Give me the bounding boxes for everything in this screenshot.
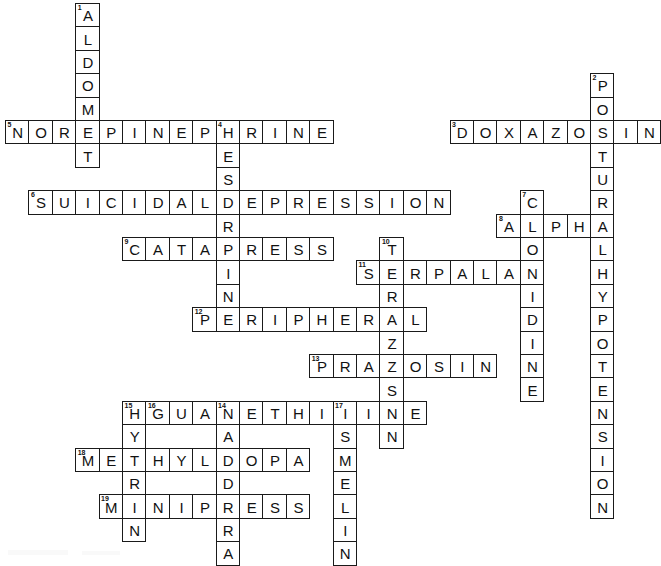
crossword-cell[interactable]: L bbox=[403, 307, 427, 331]
crossword-cell[interactable]: N bbox=[520, 354, 544, 378]
crossword-cell[interactable]: A bbox=[169, 190, 193, 214]
crossword-cell[interactable]: Y bbox=[169, 448, 193, 472]
crossword-cell[interactable]: I bbox=[262, 120, 286, 144]
crossword-cell[interactable]: I bbox=[613, 120, 637, 144]
crossword-cell[interactable]: P bbox=[426, 260, 450, 284]
crossword-cell[interactable]: A bbox=[590, 214, 614, 238]
crossword-cell[interactable]: A bbox=[192, 237, 216, 261]
crossword-cell[interactable]: S bbox=[590, 120, 614, 144]
crossword-cell[interactable]: N bbox=[590, 401, 614, 425]
crossword-cell[interactable]: 12P bbox=[192, 307, 216, 331]
crossword-cell[interactable]: Y bbox=[590, 284, 614, 308]
crossword-cell[interactable]: I bbox=[122, 190, 146, 214]
crossword-cell[interactable]: P bbox=[192, 120, 216, 144]
crossword-cell[interactable]: 3D bbox=[450, 120, 474, 144]
crossword-cell[interactable]: O bbox=[75, 73, 99, 97]
crossword-cell[interactable]: R bbox=[379, 284, 403, 308]
crossword-cell[interactable]: 18M bbox=[75, 448, 99, 472]
crossword-cell[interactable]: O bbox=[28, 120, 52, 144]
crossword-cell[interactable]: T bbox=[262, 401, 286, 425]
crossword-cell[interactable]: 16G bbox=[145, 401, 169, 425]
crossword-cell[interactable]: S bbox=[216, 167, 240, 191]
crossword-cell[interactable]: N bbox=[426, 190, 450, 214]
crossword-cell[interactable]: R bbox=[286, 190, 310, 214]
crossword-cell[interactable]: S bbox=[286, 494, 310, 518]
crossword-cell[interactable]: N bbox=[379, 401, 403, 425]
crossword-cell[interactable]: U bbox=[590, 167, 614, 191]
crossword-cell[interactable]: Z bbox=[379, 331, 403, 355]
crossword-cell[interactable]: S bbox=[356, 190, 380, 214]
crossword-cell[interactable]: N bbox=[145, 494, 169, 518]
crossword-cell[interactable]: E bbox=[262, 237, 286, 261]
crossword-cell[interactable]: H bbox=[309, 307, 333, 331]
crossword-cell[interactable]: S bbox=[286, 237, 310, 261]
crossword-cell[interactable]: I bbox=[520, 331, 544, 355]
crossword-cell[interactable]: 13P bbox=[309, 354, 333, 378]
crossword-cell[interactable]: E bbox=[169, 120, 193, 144]
crossword-cell[interactable]: E bbox=[590, 377, 614, 401]
crossword-cell[interactable]: E bbox=[216, 143, 240, 167]
crossword-cell[interactable]: L bbox=[192, 190, 216, 214]
crossword-cell[interactable]: I bbox=[262, 307, 286, 331]
crossword-cell[interactable]: E bbox=[239, 494, 263, 518]
crossword-cell[interactable]: S bbox=[333, 190, 357, 214]
crossword-cell[interactable]: N bbox=[122, 518, 146, 542]
crossword-cell[interactable]: O bbox=[590, 97, 614, 121]
crossword-cell[interactable]: 9C bbox=[122, 237, 146, 261]
crossword-cell[interactable]: 2P bbox=[590, 73, 614, 97]
crossword-cell[interactable]: D bbox=[145, 190, 169, 214]
crossword-cell[interactable]: I bbox=[169, 494, 193, 518]
crossword-cell[interactable]: I bbox=[590, 448, 614, 472]
crossword-cell[interactable]: I bbox=[216, 260, 240, 284]
crossword-cell[interactable]: P bbox=[192, 494, 216, 518]
crossword-cell[interactable]: A bbox=[286, 448, 310, 472]
crossword-cell[interactable]: S bbox=[309, 237, 333, 261]
crossword-cell[interactable]: I bbox=[379, 190, 403, 214]
crossword-cell[interactable]: 10T bbox=[379, 237, 403, 261]
crossword-cell[interactable]: C bbox=[99, 190, 123, 214]
crossword-cell[interactable]: P bbox=[286, 307, 310, 331]
crossword-cell[interactable]: A bbox=[496, 260, 520, 284]
crossword-cell[interactable]: N bbox=[637, 120, 661, 144]
crossword-cell[interactable]: R bbox=[52, 120, 76, 144]
crossword-cell[interactable]: E bbox=[403, 401, 427, 425]
crossword-cell[interactable]: D bbox=[216, 448, 240, 472]
crossword-cell[interactable]: E bbox=[75, 120, 99, 144]
crossword-cell[interactable]: 14N bbox=[216, 401, 240, 425]
crossword-cell[interactable]: L bbox=[192, 448, 216, 472]
crossword-cell[interactable]: O bbox=[520, 237, 544, 261]
crossword-cell[interactable]: I bbox=[309, 401, 333, 425]
crossword-cell[interactable]: N bbox=[520, 260, 544, 284]
crossword-cell[interactable]: E bbox=[379, 260, 403, 284]
crossword-cell[interactable]: O bbox=[567, 120, 591, 144]
crossword-cell[interactable]: O bbox=[590, 471, 614, 495]
crossword-cell[interactable]: I bbox=[75, 190, 99, 214]
crossword-cell[interactable]: S bbox=[333, 424, 357, 448]
crossword-cell[interactable]: R bbox=[333, 354, 357, 378]
crossword-cell[interactable]: H bbox=[286, 401, 310, 425]
crossword-cell[interactable]: E bbox=[309, 120, 333, 144]
crossword-cell[interactable]: N bbox=[473, 354, 497, 378]
crossword-cell[interactable]: R bbox=[239, 307, 263, 331]
crossword-cell[interactable]: A bbox=[216, 541, 240, 565]
crossword-cell[interactable]: N bbox=[379, 424, 403, 448]
crossword-cell[interactable]: P bbox=[99, 120, 123, 144]
crossword-cell[interactable]: N bbox=[333, 541, 357, 565]
crossword-cell[interactable]: R bbox=[216, 214, 240, 238]
crossword-cell[interactable]: X bbox=[496, 120, 520, 144]
crossword-cell[interactable]: P bbox=[590, 307, 614, 331]
crossword-cell[interactable]: A bbox=[379, 307, 403, 331]
crossword-cell[interactable]: 6S bbox=[28, 190, 52, 214]
crossword-cell[interactable]: O bbox=[403, 190, 427, 214]
crossword-cell[interactable]: P bbox=[262, 190, 286, 214]
crossword-cell[interactable]: P bbox=[543, 214, 567, 238]
crossword-cell[interactable]: 15H bbox=[122, 401, 146, 425]
crossword-cell[interactable]: S bbox=[262, 494, 286, 518]
crossword-cell[interactable]: 7C bbox=[520, 190, 544, 214]
crossword-cell[interactable]: Y bbox=[122, 424, 146, 448]
crossword-cell[interactable]: T bbox=[75, 143, 99, 167]
crossword-cell[interactable]: P bbox=[262, 448, 286, 472]
crossword-cell[interactable]: N bbox=[590, 494, 614, 518]
crossword-cell[interactable]: U bbox=[169, 401, 193, 425]
crossword-cell[interactable]: A bbox=[216, 424, 240, 448]
